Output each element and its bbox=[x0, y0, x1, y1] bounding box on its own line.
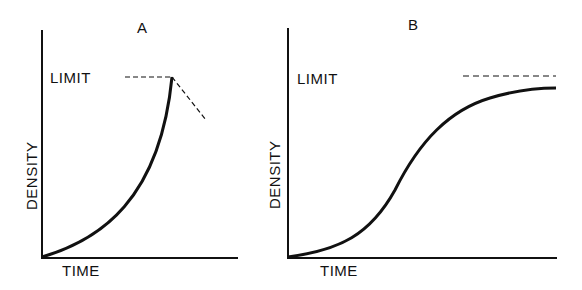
growth-curves-figure bbox=[0, 0, 582, 290]
panel-a-crash-dash bbox=[172, 77, 206, 120]
panel-b-limit-label: LIMIT bbox=[297, 71, 338, 86]
panel-a-limit-label: LIMIT bbox=[50, 70, 91, 85]
panel-a-ylabel: DENSITY bbox=[24, 141, 39, 210]
panel-b-s-curve bbox=[288, 88, 556, 257]
panel-a-xlabel: TIME bbox=[62, 263, 100, 278]
panel-a-j-curve bbox=[42, 77, 172, 257]
panel-a-title: A bbox=[137, 20, 148, 35]
panel-b bbox=[287, 28, 557, 258]
panel-b-xlabel: TIME bbox=[320, 263, 358, 278]
panel-b-ylabel: DENSITY bbox=[267, 140, 282, 209]
panel-a bbox=[41, 30, 238, 258]
panel-b-title: B bbox=[408, 17, 419, 32]
